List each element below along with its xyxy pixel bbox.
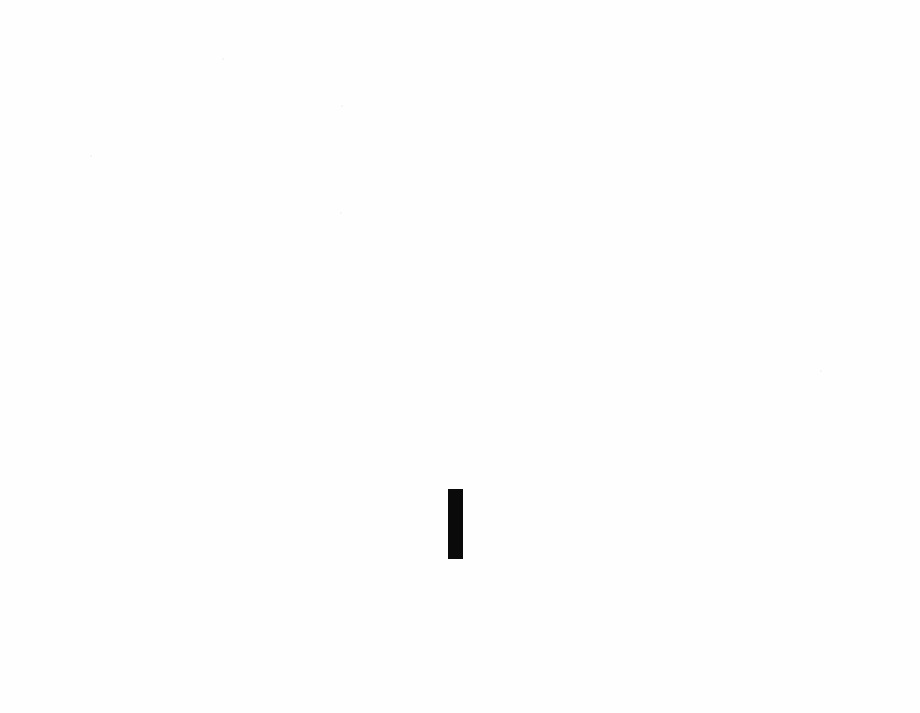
letter-i-glyph: I <box>448 489 463 559</box>
scan-speck <box>820 370 822 372</box>
scan-speck <box>222 58 224 60</box>
scan-speck <box>341 105 343 107</box>
glyph-text: I <box>448 489 449 490</box>
document-page: I <box>0 0 920 713</box>
scan-speck <box>90 155 92 157</box>
scan-speck <box>340 212 342 214</box>
